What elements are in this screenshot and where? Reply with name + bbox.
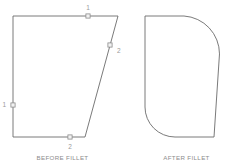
panel-before: 1212 [2, 4, 121, 150]
vertex-marker-before-1[interactable] [108, 43, 112, 47]
shape-outline-before [13, 16, 118, 137]
vertex-label-before-2: 1 [2, 101, 6, 108]
shape-outline-after [145, 16, 219, 137]
vertex-marker-before-2[interactable] [11, 103, 15, 107]
caption-after-fillet: AFTER FILLET [124, 154, 249, 161]
vertex-label-before-1: 2 [117, 47, 121, 54]
fillet-diagram-canvas: 1212 [0, 0, 249, 164]
panel-after [145, 16, 219, 137]
fillet-figure: 1212 BEFORE FILLET AFTER FILLET [0, 0, 249, 164]
vertex-marker-before-3[interactable] [68, 135, 72, 139]
vertex-label-before-3: 2 [68, 143, 72, 150]
vertex-label-before-0: 1 [86, 4, 90, 11]
caption-before-fillet: BEFORE FILLET [0, 154, 125, 161]
vertex-marker-before-0[interactable] [86, 14, 90, 18]
